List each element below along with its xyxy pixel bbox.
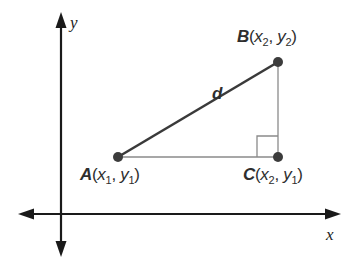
point-a-icon (113, 152, 123, 162)
x-axis-label: x (326, 226, 334, 243)
segment-ab-distance (118, 62, 278, 157)
point-b-icon (273, 57, 283, 67)
y-axis-up-arrow-icon (56, 12, 67, 28)
point-a-name: A (80, 165, 92, 184)
x-axis-left-arrow-icon (18, 209, 34, 220)
x-axis (18, 209, 341, 220)
point-c-icon (273, 152, 283, 162)
point-b-name: B (237, 27, 249, 46)
coordinate-plane (0, 0, 357, 258)
point-b-label: B(x2, y2) (237, 28, 297, 45)
x-axis-right-arrow-icon (325, 209, 341, 220)
point-c-name: C (243, 165, 255, 184)
distance-label: d (212, 85, 222, 102)
y-axis-down-arrow-icon (56, 241, 67, 257)
y-axis (56, 12, 67, 257)
y-axis-label: y (70, 14, 78, 31)
point-c-label: C(x2, y1) (243, 166, 303, 183)
point-a-label: A(x1, y1) (80, 166, 140, 183)
